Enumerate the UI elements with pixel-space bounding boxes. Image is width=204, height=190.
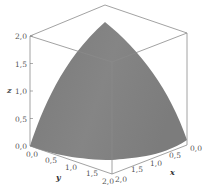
y-tick-0: 0,0 [26, 150, 38, 159]
y-tick-2: 1,0 [65, 163, 77, 172]
surface-dome [30, 22, 187, 160]
z-tick-1: 0,5 [15, 115, 27, 124]
z-tick-2: 1,0 [15, 87, 27, 96]
y-tick-4: 2,0 [102, 177, 114, 186]
y-tick-3: 1,5 [86, 169, 98, 178]
x-tick-1: 0,5 [169, 151, 181, 160]
z-axis: 0,0 0,5 1,0 1,5 2,0 z [6, 32, 33, 151]
y-tick-1: 0,5 [45, 156, 57, 165]
x-tick-4: 2,0 [115, 175, 127, 184]
x-axis-label: x [169, 167, 175, 177]
z-axis-label: z [6, 85, 12, 95]
x-tick-3: 1,5 [131, 165, 143, 174]
z-tick-4: 2,0 [15, 32, 27, 41]
x-tick-2: 1,0 [150, 159, 162, 168]
x-tick-0: 0,0 [190, 144, 202, 153]
y-axis-label: y [55, 172, 62, 182]
z-tick-3: 1,5 [15, 60, 27, 69]
surface-plot-3d: 0,0 0,5 1,0 1,5 2,0 z 0,0 0,5 1,0 1,5 2,… [0, 0, 204, 190]
